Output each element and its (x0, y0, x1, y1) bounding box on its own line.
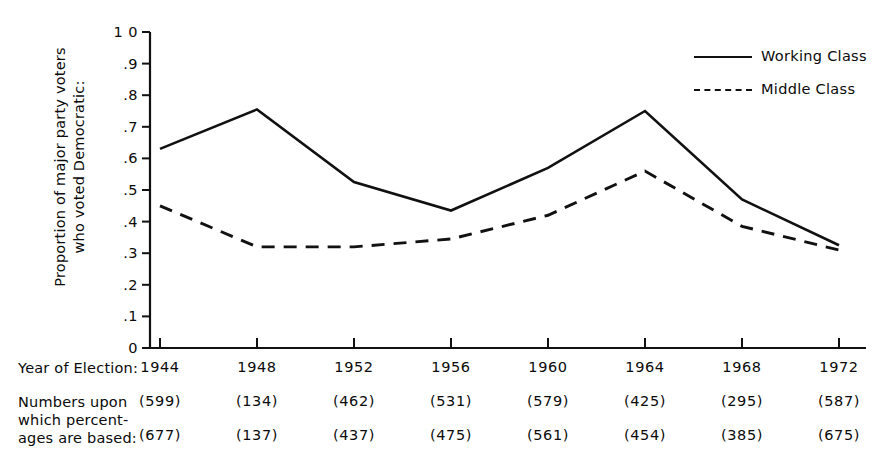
x-tick-label: 1948 (212, 359, 302, 375)
table-cell: (675) (794, 427, 876, 443)
table-cell: (295) (697, 393, 787, 409)
y-axis-tick-marks (142, 32, 150, 348)
table-cell: (454) (600, 427, 690, 443)
chart-figure: Proportion of major party voters who vot… (0, 0, 876, 470)
legend-label-middle-class: Middle Class (761, 81, 855, 97)
data-table: Year of Election: Numbers upon which per… (0, 352, 876, 470)
series-line-working-class (160, 109, 839, 245)
table-note-line-1: Numbers upon (18, 393, 127, 411)
table-cell: (385) (697, 427, 787, 443)
table-cell: (531) (406, 393, 496, 409)
table-cell: (561) (503, 427, 593, 443)
table-cell: (579) (503, 393, 593, 409)
x-tick-label: 1968 (697, 359, 787, 375)
x-tick-label: 1956 (406, 359, 496, 375)
x-tick-label: 1944 (115, 359, 205, 375)
table-cell: (599) (115, 393, 205, 409)
table-cell: (134) (212, 393, 302, 409)
x-tick-label: 1964 (600, 359, 690, 375)
legend-label-working-class: Working Class (761, 48, 867, 64)
legend-swatch-solid-icon (694, 51, 752, 61)
legend-item-middle-class: Middle Class (694, 81, 855, 97)
table-cell: (677) (115, 427, 205, 443)
table-note-line-2: which percent- (18, 411, 128, 429)
table-cell: (475) (406, 427, 496, 443)
table-cell: (587) (794, 393, 876, 409)
table-cell: (462) (309, 393, 399, 409)
x-tick-label: 1960 (503, 359, 593, 375)
table-cell: (137) (212, 427, 302, 443)
x-tick-label: 1972 (794, 359, 876, 375)
table-cell: (425) (600, 393, 690, 409)
table-cell: (437) (309, 427, 399, 443)
series-line-middle-class (160, 171, 839, 250)
x-tick-label: 1952 (309, 359, 399, 375)
legend-swatch-dashed-icon (694, 84, 752, 94)
legend-item-working-class: Working Class (694, 48, 867, 64)
x-axis-tick-marks (160, 338, 839, 348)
